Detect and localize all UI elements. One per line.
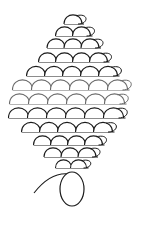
bead xyxy=(66,108,86,118)
bead xyxy=(22,122,41,132)
bead xyxy=(56,53,74,62)
bead xyxy=(105,94,125,104)
bead-row xyxy=(39,53,112,62)
bead-row xyxy=(34,136,107,145)
bead xyxy=(86,94,106,104)
bead xyxy=(73,53,91,62)
bead xyxy=(32,80,52,90)
bead xyxy=(56,27,74,36)
bead xyxy=(104,108,124,118)
bead xyxy=(78,148,96,157)
bead xyxy=(64,39,82,48)
bead-row xyxy=(56,160,91,168)
bead xyxy=(108,80,128,90)
bead xyxy=(29,94,49,104)
bead xyxy=(61,148,79,157)
bead xyxy=(81,39,99,48)
bead xyxy=(63,66,82,76)
bead xyxy=(48,94,68,104)
bead xyxy=(94,122,113,132)
end-bead xyxy=(60,172,84,206)
bead xyxy=(47,108,67,118)
bead xyxy=(39,53,57,62)
bead xyxy=(40,122,59,132)
bead-row xyxy=(64,15,86,24)
bead-row xyxy=(9,108,128,118)
bead xyxy=(76,122,95,132)
bead xyxy=(51,80,71,90)
bead-row xyxy=(22,122,117,132)
bead xyxy=(85,136,103,145)
bead xyxy=(70,80,90,90)
bead xyxy=(58,122,77,132)
bead-pattern-drawing xyxy=(0,0,147,229)
bead xyxy=(99,66,118,76)
bead xyxy=(81,66,100,76)
bead xyxy=(47,39,65,48)
bead xyxy=(89,80,109,90)
bead xyxy=(44,148,62,157)
bead xyxy=(51,136,69,145)
bead-row xyxy=(10,94,129,104)
bead xyxy=(90,53,108,62)
bead xyxy=(34,136,52,145)
bead-rows xyxy=(9,15,132,168)
bead xyxy=(85,108,105,118)
bead xyxy=(68,136,86,145)
bead xyxy=(28,108,48,118)
bead xyxy=(13,80,33,90)
bead-row xyxy=(27,66,122,76)
bead xyxy=(45,66,64,76)
bead-row xyxy=(47,39,103,48)
bead xyxy=(9,108,29,118)
bead-row xyxy=(44,148,100,157)
bead xyxy=(73,27,91,36)
bead-row xyxy=(13,80,132,90)
bead-row xyxy=(56,27,95,36)
bead xyxy=(64,15,82,24)
beadwork-diagram xyxy=(0,0,147,229)
bead xyxy=(10,94,30,104)
bead xyxy=(71,160,87,168)
bead xyxy=(27,66,46,76)
bead xyxy=(67,94,87,104)
bead xyxy=(56,160,72,168)
